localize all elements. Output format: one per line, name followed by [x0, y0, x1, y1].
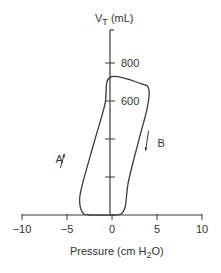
y-axis-label: VT (mL): [95, 12, 134, 27]
x-tick-label: −10: [13, 223, 32, 235]
annotation-label-b: B: [158, 137, 165, 149]
pressure-volume-chart: −10−50510600800 AB VT (mL) Pressure (cm …: [0, 0, 221, 273]
x-tick-label: −5: [61, 223, 74, 235]
x-tick-label: 5: [154, 223, 160, 235]
x-axis-label: Pressure (cm H2O): [70, 245, 164, 260]
y-tick-label: 600: [121, 95, 139, 107]
x-tick-label: 0: [109, 223, 115, 235]
chart-canvas: −10−50510600800 AB VT (mL) Pressure (cm …: [0, 0, 221, 273]
x-tick-label: 10: [196, 223, 208, 235]
y-tick-label: 800: [121, 57, 139, 69]
axes: −10−50510600800: [13, 30, 208, 235]
